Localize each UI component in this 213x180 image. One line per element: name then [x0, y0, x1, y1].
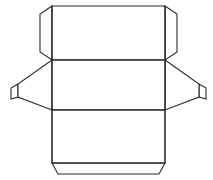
top-right-side-flap: [165, 6, 177, 60]
top-panel: [52, 6, 165, 60]
middle-panel: [52, 60, 165, 110]
diagram-canvas: [0, 0, 213, 180]
bottom-panel: [52, 110, 165, 163]
bottom-closure-flap: [52, 163, 165, 174]
top-left-side-flap: [40, 6, 52, 60]
box-die-cut-diagram: [0, 0, 213, 180]
